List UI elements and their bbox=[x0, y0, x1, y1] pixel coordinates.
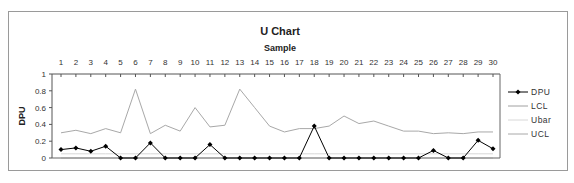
y-axis-label: DPU bbox=[17, 106, 27, 125]
x-tick-label: 28 bbox=[459, 58, 468, 67]
chart-container: U Chart Sample DPU 00.20.40.60.811234567… bbox=[8, 11, 568, 171]
legend-label-ubar: Ubar bbox=[531, 115, 551, 125]
x-tick-label: 4 bbox=[103, 58, 108, 67]
x-tick-label: 8 bbox=[163, 58, 168, 67]
x-tick-label: 23 bbox=[384, 58, 393, 67]
x-axis-label: Sample bbox=[264, 43, 296, 53]
legend-label-dpu: DPU bbox=[531, 87, 550, 97]
x-tick-label: 5 bbox=[118, 58, 123, 67]
x-tick-label: 1 bbox=[59, 58, 64, 67]
legend-label-ucl: UCL bbox=[531, 129, 550, 139]
x-tick-label: 24 bbox=[399, 58, 408, 67]
u-chart: U Chart Sample DPU 00.20.40.60.811234567… bbox=[8, 11, 568, 171]
x-tick-label: 11 bbox=[206, 58, 215, 67]
chart-title: U Chart bbox=[260, 25, 300, 37]
x-tick-label: 15 bbox=[265, 58, 274, 67]
x-tick-label: 30 bbox=[489, 58, 498, 67]
x-tick-label: 7 bbox=[148, 58, 153, 67]
y-tick-label: 0.8 bbox=[35, 87, 47, 96]
y-tick-label: 0.2 bbox=[35, 137, 47, 146]
x-tick-label: 6 bbox=[133, 58, 138, 67]
x-tick-label: 22 bbox=[369, 58, 378, 67]
x-tick-label: 29 bbox=[474, 58, 483, 67]
x-tick-label: 16 bbox=[280, 58, 289, 67]
y-tick-label: 0 bbox=[42, 154, 47, 163]
x-tick-label: 14 bbox=[250, 58, 259, 67]
x-tick-label: 9 bbox=[178, 58, 183, 67]
y-tick-label: 0.6 bbox=[35, 104, 47, 113]
y-tick-label: 1 bbox=[42, 70, 47, 79]
x-tick-label: 12 bbox=[220, 58, 229, 67]
x-tick-label: 26 bbox=[429, 58, 438, 67]
x-tick-label: 21 bbox=[354, 58, 363, 67]
x-tick-label: 13 bbox=[235, 58, 244, 67]
x-tick-label: 18 bbox=[310, 58, 319, 67]
x-tick-label: 3 bbox=[89, 58, 94, 67]
x-tick-label: 19 bbox=[325, 58, 334, 67]
x-tick-label: 17 bbox=[295, 58, 304, 67]
x-tick-label: 20 bbox=[340, 58, 349, 67]
legend-label-lcl: LCL bbox=[531, 101, 548, 111]
x-tick-label: 2 bbox=[74, 58, 79, 67]
x-tick-label: 27 bbox=[444, 58, 453, 67]
y-tick-label: 0.4 bbox=[35, 120, 47, 129]
x-tick-label: 10 bbox=[191, 58, 200, 67]
x-tick-label: 25 bbox=[414, 58, 423, 67]
